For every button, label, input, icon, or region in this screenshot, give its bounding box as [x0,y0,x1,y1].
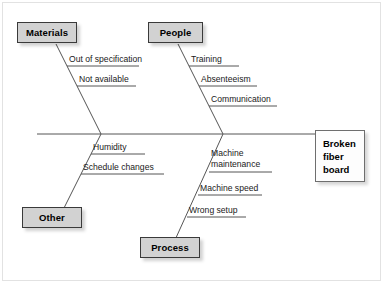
category-label-people: People [160,27,192,38]
fishbone-diagram: Materials People Other Process Broken fi… [0,0,385,285]
category-label-process: Process [151,242,189,253]
category-box-process[interactable]: Process [140,237,200,258]
cause-other-schedule-changes[interactable]: Schedule changes [83,162,154,173]
cause-process-machine-maintenance-line-2: maintenance [211,159,260,170]
category-box-materials[interactable]: Materials [17,22,77,43]
cause-process-machine-maintenance[interactable]: Machine maintenance [211,148,260,170]
cause-process-machine-speed[interactable]: Machine speed [200,183,258,194]
cause-process-wrong-setup[interactable]: Wrong setup [189,205,238,216]
effect-label-line-3: board [323,163,364,176]
cause-other-humidity[interactable]: Humidity [93,142,126,153]
effect-label-line-2: fiber [323,150,364,163]
category-box-other[interactable]: Other [22,207,82,228]
cause-process-machine-maintenance-line-1: Machine [211,148,260,159]
cause-materials-out-of-specification[interactable]: Out of specification [69,54,142,65]
category-label-materials: Materials [26,27,68,38]
effect-box[interactable]: Broken fiber board [315,130,365,182]
category-box-people[interactable]: People [148,22,203,43]
cause-people-training[interactable]: Training [191,54,222,65]
category-label-other: Other [39,212,65,223]
cause-people-communication[interactable]: Communication [211,94,271,105]
effect-label-line-1: Broken [323,137,364,150]
cause-materials-not-available[interactable]: Not available [79,74,129,85]
cause-people-absenteeism[interactable]: Absenteeism [201,74,251,85]
